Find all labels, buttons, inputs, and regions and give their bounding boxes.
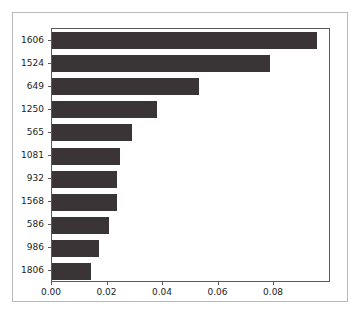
bar-row: [52, 194, 329, 211]
bar-986: [52, 240, 99, 257]
bar-row: [52, 124, 329, 141]
bar-586: [52, 217, 109, 234]
bar-row: [52, 240, 329, 257]
axes-plot-area: [51, 28, 330, 282]
bar-row: [52, 32, 329, 49]
bar-1250: [52, 101, 157, 118]
bar-649: [52, 78, 199, 95]
bar-932: [52, 171, 117, 188]
bar-row: [52, 263, 329, 280]
bars-container: [52, 29, 329, 281]
bar-1606: [52, 32, 317, 49]
bar-1568: [52, 194, 117, 211]
bar-565: [52, 124, 132, 141]
bar-row: [52, 55, 329, 72]
bar-row: [52, 217, 329, 234]
bar-row: [52, 78, 329, 95]
bar-1524: [52, 55, 270, 72]
figure: 160615246491250565108193215685869861806 …: [0, 0, 356, 313]
bar-1806: [52, 263, 91, 280]
bar-row: [52, 148, 329, 165]
bar-1081: [52, 148, 120, 165]
bar-row: [52, 171, 329, 188]
bar-row: [52, 101, 329, 118]
